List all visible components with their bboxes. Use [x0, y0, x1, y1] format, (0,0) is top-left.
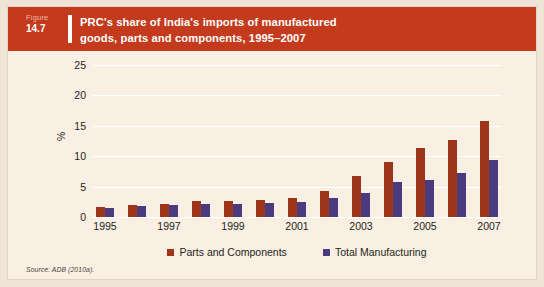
- bar-group-2000: [252, 65, 278, 217]
- bar-parts-components-2003: [352, 176, 361, 217]
- bar-total-manufacturing-1999: [233, 204, 242, 217]
- bar-total-manufacturing-2003: [361, 193, 370, 217]
- x-tick-1999: 1999: [220, 220, 246, 236]
- legend-label: Total Manufacturing: [335, 246, 427, 258]
- x-tick-2004: [380, 220, 406, 236]
- bar-total-manufacturing-2005: [425, 180, 434, 217]
- bar-group-2004: [380, 65, 406, 217]
- legend-swatch-icon: [167, 249, 174, 256]
- x-tick-1996: [124, 220, 150, 236]
- figure-container: Figure 14.7 PRC's share of India's impor…: [8, 7, 536, 279]
- bar-group-2002: [316, 65, 342, 217]
- bar-total-manufacturing-2006: [457, 173, 466, 217]
- y-tick-10: 10: [74, 150, 86, 162]
- figure-title: PRC's share of India's imports of manufa…: [80, 14, 520, 46]
- bar-group-1996: [124, 65, 150, 217]
- x-tick-1998: [188, 220, 214, 236]
- plot-area: 0510152025: [92, 65, 502, 217]
- bar-parts-components-2001: [288, 198, 297, 217]
- bar-group-2007: [476, 65, 502, 217]
- bar-group-1995: [92, 65, 118, 217]
- bar-group-1999: [220, 65, 246, 217]
- y-tick-5: 5: [80, 181, 86, 193]
- legend-item-parts-components[interactable]: Parts and Components: [167, 246, 286, 258]
- bar-parts-components-1996: [128, 205, 137, 217]
- x-tick-2007: 2007: [476, 220, 502, 236]
- bar-parts-components-2000: [256, 200, 265, 217]
- bar-parts-components-1998: [192, 201, 201, 217]
- bar-parts-components-1997: [160, 204, 169, 217]
- x-tick-2000: [252, 220, 278, 236]
- bar-total-manufacturing-2004: [393, 182, 402, 217]
- bar-group-2001: [284, 65, 310, 217]
- bar-parts-components-2004: [384, 162, 393, 217]
- x-tick-2003: 2003: [348, 220, 374, 236]
- bar-total-manufacturing-1997: [169, 205, 178, 217]
- bar-parts-components-2002: [320, 191, 329, 217]
- banner-divider: [68, 15, 72, 43]
- y-axis-title: %: [55, 132, 67, 141]
- bar-total-manufacturing-1998: [201, 204, 210, 217]
- bar-group-2006: [444, 65, 470, 217]
- legend-label: Parts and Components: [179, 246, 286, 258]
- bar-group-1998: [188, 65, 214, 217]
- y-tick-0: 0: [80, 211, 86, 223]
- bar-total-manufacturing-1995: [105, 208, 114, 217]
- figure-number-block: Figure 14.7: [26, 14, 70, 34]
- legend-item-total-manufacturing[interactable]: Total Manufacturing: [323, 246, 427, 258]
- bar-parts-components-2007: [480, 121, 489, 217]
- figure-header-banner: Figure 14.7 PRC's share of India's impor…: [8, 7, 536, 51]
- bar-total-manufacturing-1996: [137, 206, 146, 217]
- x-tick-2005: 2005: [412, 220, 438, 236]
- bar-parts-components-1995: [96, 207, 105, 217]
- bar-total-manufacturing-2001: [297, 202, 306, 217]
- bar-parts-components-1999: [224, 201, 233, 217]
- bar-group-2003: [348, 65, 374, 217]
- y-tick-20: 20: [74, 89, 86, 101]
- legend-swatch-icon: [323, 249, 330, 256]
- bar-total-manufacturing-2002: [329, 198, 338, 217]
- bar-group-2005: [412, 65, 438, 217]
- x-tick-1995: 1995: [92, 220, 118, 236]
- figure-title-line-2: goods, parts and components, 1995–2007: [80, 30, 520, 46]
- bar-series-container: [92, 65, 502, 217]
- figure-number-word: Figure: [26, 14, 70, 22]
- bar-total-manufacturing-2000: [265, 203, 274, 217]
- figure-title-line-1: PRC's share of India's imports of manufa…: [80, 14, 520, 30]
- x-tick-1997: 1997: [156, 220, 182, 236]
- bar-parts-components-2005: [416, 148, 425, 217]
- bar-group-1997: [156, 65, 182, 217]
- x-axis-tick-labels: 1995199719992001200320052007: [92, 220, 502, 236]
- bar-parts-components-2006: [448, 140, 457, 217]
- source-note: Source: ADB (2010a).: [26, 266, 94, 273]
- y-tick-25: 25: [74, 59, 86, 71]
- chart-legend: Parts and ComponentsTotal Manufacturing: [92, 244, 502, 260]
- x-tick-2006: [444, 220, 470, 236]
- x-tick-2002: [316, 220, 342, 236]
- x-tick-2001: 2001: [284, 220, 310, 236]
- y-tick-15: 15: [74, 120, 86, 132]
- bar-total-manufacturing-2007: [489, 160, 498, 217]
- figure-number-value: 14.7: [26, 24, 70, 35]
- gridline-0: [92, 217, 502, 218]
